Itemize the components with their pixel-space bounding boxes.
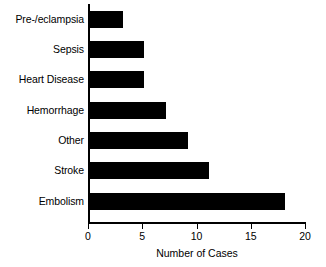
bar [90,162,209,179]
bar-chart: Pre-/eclampsia Sepsis Heart Disease Hemo… [0,0,326,267]
category-axis-labels: Pre-/eclampsia Sepsis Heart Disease Hemo… [0,4,84,222]
tick-label: 0 [85,229,91,243]
bar-row [90,11,123,28]
bar [90,102,166,119]
bar-series [90,4,306,222]
bar-row [90,193,285,210]
category-label: Other [0,132,84,149]
tick-label: 15 [245,229,257,243]
x-axis-ticks: 0 5 10 15 20 [88,224,308,244]
tick-label: 5 [139,229,145,243]
bar [90,193,285,210]
bar-row [90,132,188,149]
category-label: Pre-/eclampsia [0,11,84,28]
category-label: Heart Disease [0,71,84,88]
category-label: Sepsis [0,41,84,58]
bar [90,132,188,149]
tick-label: 10 [191,229,203,243]
category-label: Stroke [0,162,84,179]
category-label: Hemorrhage [0,102,84,119]
bar-row [90,102,166,119]
x-axis-title: Number of Cases [88,246,306,260]
bar-row [90,41,144,58]
bar-row [90,71,144,88]
bar [90,11,123,28]
tick-label: 20 [299,229,311,243]
category-label: Embolism [0,193,84,210]
bar [90,41,144,58]
bar-row [90,162,209,179]
bar [90,71,144,88]
